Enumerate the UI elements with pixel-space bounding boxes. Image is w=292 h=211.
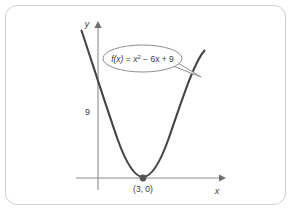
y-axis-arrow-icon [94,21,101,28]
vertex-label: (3, 0) [133,184,153,194]
x-axis-arrow-icon [219,174,226,181]
equation-lhs: f(x) [111,54,123,64]
callout-equation: f(x) = x2 − 6x + 9 [111,54,174,64]
y-intercept-label: 9 [85,107,90,117]
equation-term3: + 9 [162,54,174,64]
vertex-point-marker [140,175,147,182]
x-axis-label: x [214,186,220,196]
equation-term2: − 6x [143,54,160,64]
parabola-graph: f(x) = x2 − 6x + 9 9 (3, 0) y x [0,0,292,211]
y-axis-label: y [84,19,90,29]
